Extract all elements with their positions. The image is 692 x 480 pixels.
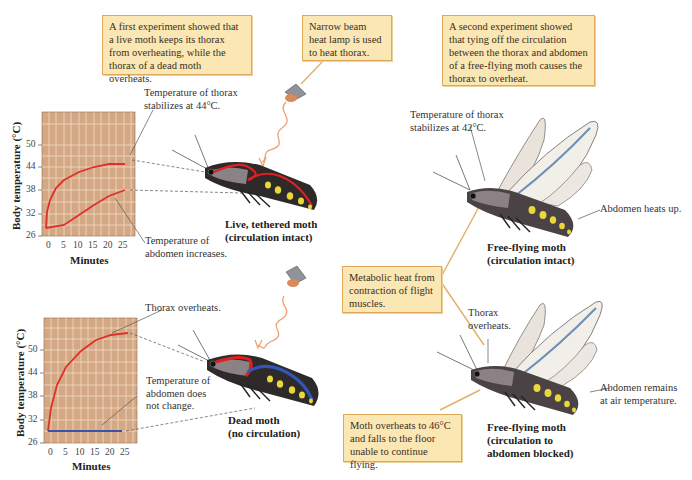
chart-live-moth — [38, 112, 135, 236]
chart1-y-tick: 44 — [26, 161, 36, 171]
chart1-y-tick: 32 — [26, 208, 36, 218]
free-flying-blocked-caption: Free-flying moth (circulation to abdomen… — [487, 421, 574, 460]
chart1-x-axis-title: Minutes — [70, 254, 109, 266]
chart1-x-tick: 10 — [73, 240, 83, 250]
chart2-y-tick: 44 — [28, 367, 38, 377]
second-experiment-box: A second experiment showed that tying of… — [442, 15, 595, 86]
free-flying-moth-blocked-illustration — [437, 301, 602, 415]
heat-lamp-icon — [259, 84, 306, 166]
thorax-stabilizes-44-label: Temperature of thorax stabilizes at 44°C… — [144, 87, 238, 112]
abdomen-heats-up-label: Abdomen heats up. — [600, 203, 681, 216]
heat-lamp-icon — [255, 266, 306, 348]
chart2-y-axis-title: Body temperature (°C) — [14, 329, 26, 437]
thorax-overheats-moth-label: Thorax overheats. — [468, 307, 511, 332]
chart2-x-tick: 0 — [48, 447, 53, 457]
chart2-y-tick: 50 — [28, 344, 38, 354]
chart2-x-tick: 20 — [105, 447, 115, 457]
live-moth-illustration — [172, 135, 317, 210]
chart2-x-tick: 25 — [120, 447, 130, 457]
chart1-x-tick: 20 — [103, 240, 113, 250]
chart1-x-tick: 0 — [46, 240, 51, 250]
metabolic-heat-box: Metabolic heat from contraction of fligh… — [342, 266, 442, 313]
thorax-overheats-chart-label: Thorax overheats. — [145, 302, 221, 315]
abdomen-no-change-label: Temperature of abdomen does not change. — [146, 375, 210, 413]
abdomen-remains-label: Abdomen remains at air temperature. — [600, 382, 677, 407]
live-moth-caption: Live, tethered moth (circulation intact) — [225, 218, 317, 244]
chart2-y-tick: 32 — [28, 414, 38, 424]
chart1-y-tick: 50 — [26, 139, 36, 149]
thorax-stabilizes-42-label: Temperature of thorax stabilizes at 42°C… — [410, 109, 504, 134]
chart2-y-tick: 26 — [28, 437, 38, 447]
chart2-x-tick: 15 — [90, 447, 100, 457]
abdomen-increases-label: Temperature of abdomen increases. — [145, 235, 227, 260]
free-flying-intact-caption: Free-flying moth (circulation intact) — [487, 241, 574, 267]
chart2-x-tick: 5 — [63, 447, 68, 457]
chart1-x-tick: 15 — [88, 240, 98, 250]
chart2-y-tick: 38 — [28, 390, 38, 400]
chart1-x-tick: 25 — [118, 240, 128, 250]
chart1-y-tick: 38 — [26, 184, 36, 194]
dead-moth-caption: Dead moth (no circulation) — [228, 414, 300, 440]
chart-dead-moth — [40, 318, 137, 443]
chart2-x-tick: 10 — [75, 447, 85, 457]
free-flying-moth-intact-illustration — [433, 118, 598, 237]
first-experiment-box: A first experiment showed that a live mo… — [102, 15, 252, 75]
heat-lamp-box: Narrow beam heat lamp is used to heat th… — [302, 15, 392, 61]
chart1-y-tick: 26 — [26, 230, 36, 240]
chart1-y-axis-title: Body temperature (°C) — [10, 122, 22, 230]
chart2-x-axis-title: Minutes — [72, 460, 111, 472]
moth-overheats-box: Moth overheats to 46°C and falls to the … — [343, 414, 462, 462]
chart1-x-tick: 5 — [61, 240, 66, 250]
